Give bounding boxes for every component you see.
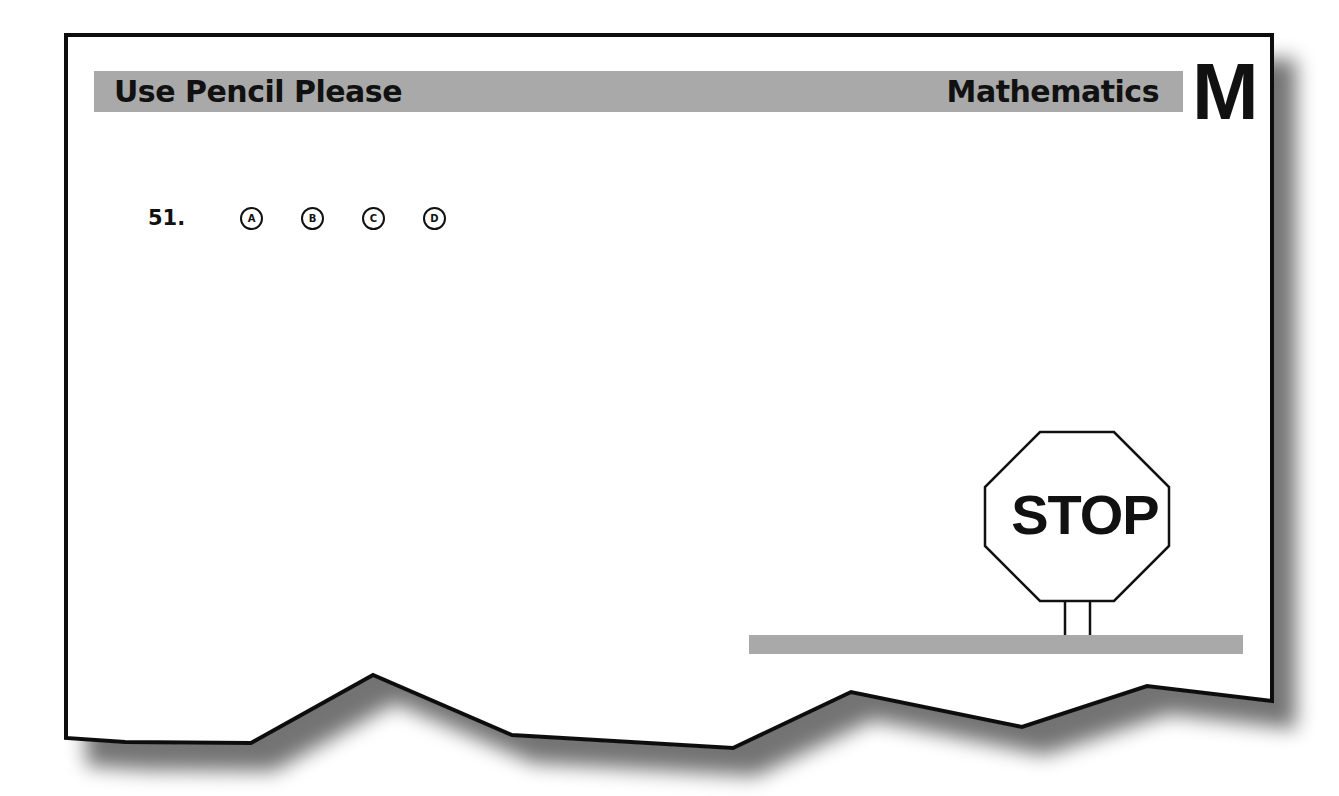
answer-bubble-d[interactable]: D [423, 207, 446, 230]
stop-sign-label: STOP [993, 481, 1177, 549]
torn-page-outline [0, 0, 1339, 796]
answer-bubble-c[interactable]: C [362, 207, 385, 230]
answer-bubble-a[interactable]: A [240, 207, 263, 230]
section-letter: M [1192, 48, 1259, 136]
subject-title: Mathematics [947, 73, 1159, 111]
question-row: 51. A B C D [148, 203, 484, 233]
answer-bubble-b[interactable]: B [301, 207, 324, 230]
instruction-label: Use Pencil Please [114, 73, 402, 111]
header-bar: Use Pencil Please Mathematics [94, 71, 1183, 112]
question-number: 51. [148, 206, 240, 230]
ground-bar [749, 635, 1243, 654]
